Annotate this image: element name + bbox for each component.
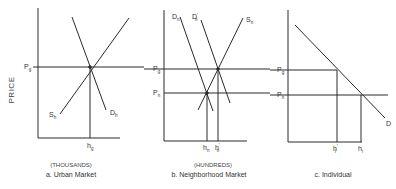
label-sh: Sh [49, 111, 57, 120]
label-pg-a: Pg [24, 63, 32, 72]
caption-c: c. Individual [315, 171, 352, 178]
y-axis-title: PRICE [7, 77, 16, 104]
label-dh: Dh [110, 109, 118, 118]
equilibrium-point-b2 [217, 68, 220, 71]
demand-curve-d [295, 25, 385, 118]
label-pn-b: Pn [153, 89, 161, 98]
label-hi: hi [358, 145, 363, 154]
caption-b: b. Neighborhood Market [171, 171, 246, 179]
label-dn-prime: D′n [192, 13, 198, 22]
supply-demand-diagram: PRICE Pg Sh Dh hg (THOUSANDS) a. Urban M… [0, 0, 396, 189]
label-hg: hg [87, 142, 94, 151]
equilibrium-point-b1 [206, 92, 209, 95]
caption-a: a. Urban Market [46, 171, 96, 178]
panel-b-neighborhood-market [144, 10, 270, 141]
panel-a-urban-market [33, 8, 144, 138]
label-hn-prime: h′n [215, 143, 220, 153]
demand-curve-dh [72, 17, 106, 110]
label-pg-c: Pg [277, 66, 285, 75]
equilibrium-point-a [89, 66, 92, 69]
panel-c-individual [270, 10, 388, 142]
label-dn: Dn [172, 13, 180, 22]
supply-curve-sh [60, 18, 129, 114]
unit-label-a: (THOUSANDS) [50, 162, 92, 168]
label-sn: Sn [246, 16, 254, 25]
label-pg-b: Pg [153, 65, 161, 74]
demand-curve-dn [180, 17, 213, 111]
label-pn-c: Pn [277, 91, 285, 100]
label-hn: hn [203, 144, 210, 153]
unit-label-b: (HUNDREDS) [194, 162, 232, 168]
label-hi-prime: h′i [333, 144, 338, 154]
label-d: D [386, 120, 391, 127]
